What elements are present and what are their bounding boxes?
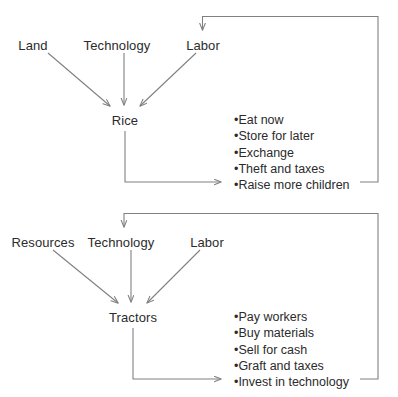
- list-item: •Eat now: [234, 112, 350, 128]
- list-item-label: Theft and taxes: [238, 162, 324, 176]
- list-item-label: Buy materials: [238, 326, 314, 340]
- list-item: •Exchange: [234, 145, 350, 161]
- list-item: •Sell for cash: [234, 342, 349, 358]
- node-label-tractors: Tractors: [109, 310, 157, 325]
- arrow-land-to-rice: [48, 53, 110, 106]
- outcome-list-tractors: •Pay workers •Buy materials •Sell for ca…: [234, 309, 349, 390]
- list-item-label: Eat now: [238, 113, 283, 127]
- arrow-rice-to-outcomes: [125, 131, 221, 182]
- list-item-label: Sell for cash: [238, 343, 307, 357]
- node-label-labor-bottom: Labor: [190, 235, 224, 250]
- list-item-label: Exchange: [238, 146, 294, 160]
- list-item: •Raise more children: [234, 177, 350, 193]
- node-label-technology-bottom: Technology: [88, 235, 155, 250]
- node-label-resources: Resources: [11, 235, 74, 250]
- node-label-labor-top: Labor: [186, 38, 220, 53]
- flow-diagram-canvas: Land Technology Labor Rice •Eat now •Sto…: [0, 0, 398, 397]
- list-item-label: Invest in technology: [238, 375, 349, 389]
- list-item: •Theft and taxes: [234, 161, 350, 177]
- list-item: •Store for later: [234, 128, 350, 144]
- node-label-technology-top: Technology: [84, 38, 151, 53]
- arrow-resources-to-tractors: [53, 250, 118, 303]
- arrow-tractors-to-outcomes: [133, 328, 221, 379]
- list-item: •Buy materials: [234, 325, 349, 341]
- list-item: •Graft and taxes: [234, 358, 349, 374]
- list-item-label: Store for later: [238, 129, 314, 143]
- outcome-list-rice: •Eat now •Store for later •Exchange •The…: [234, 112, 350, 193]
- node-label-land: Land: [18, 38, 47, 53]
- list-item-label: Pay workers: [238, 310, 307, 324]
- list-item: •Invest in technology: [234, 374, 349, 390]
- list-item: •Pay workers: [234, 309, 349, 325]
- list-item-label: Raise more children: [238, 178, 349, 192]
- list-item-label: Graft and taxes: [238, 359, 323, 373]
- arrow-labor-to-rice: [140, 53, 196, 106]
- node-label-rice: Rice: [112, 113, 138, 128]
- arrow-labor-to-tractors: [147, 250, 200, 303]
